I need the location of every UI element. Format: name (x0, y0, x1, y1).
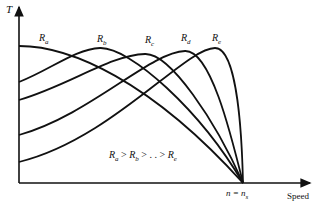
label-ra: Ra (39, 32, 49, 46)
resistance-order-annotation: Ra > Rb > . . > Re (109, 149, 177, 163)
label-rc: Rc (145, 34, 154, 48)
curve-rd (19, 51, 243, 183)
label-re: Re (212, 32, 221, 46)
y-axis-label: T (6, 3, 12, 15)
label-rb: Rb (97, 33, 107, 47)
sync-speed-label: n = ns (226, 188, 248, 201)
label-rd: Rd (181, 32, 191, 46)
x-axis-label: Speed (287, 191, 309, 201)
